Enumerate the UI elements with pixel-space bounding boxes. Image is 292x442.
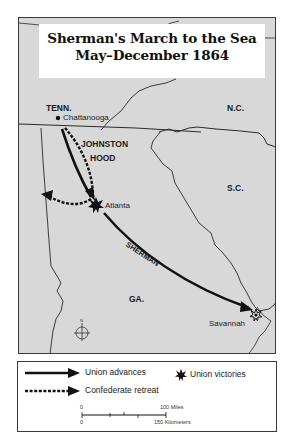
scale-km-end: 150 Kilometers — [154, 419, 191, 425]
route-label-johnston: JOHNSTON — [81, 139, 128, 149]
legend-union-advances: Union advances — [85, 367, 146, 377]
map-frame: N Sherman's March to the Sea May–Decembe… — [18, 17, 276, 354]
title-line-2: May–December 1864 — [39, 47, 265, 64]
confederate-retreat-arrow-icon — [25, 386, 80, 396]
city-label-atlanta: Atlanta — [105, 201, 130, 210]
scale-miles-start: 0 — [80, 404, 83, 410]
state-label-sc: S.C. — [227, 183, 244, 193]
route-label-hood: HOOD — [90, 153, 116, 163]
compass-rose-icon: N — [74, 318, 90, 341]
title-line-1: Sherman's March to the Sea — [39, 30, 265, 47]
union-advances-arrow-icon — [25, 368, 80, 378]
state-label-tenn: TENN. — [46, 103, 72, 113]
scale-miles-end: 100 Miles — [160, 404, 184, 410]
title-box: Sherman's March to the Sea May–December … — [39, 24, 265, 78]
legend-union-victories: Union victories — [190, 369, 246, 379]
confederate-retreat-west — [49, 196, 91, 204]
sherman-route — [104, 213, 249, 308]
ga-sc-border — [151, 131, 276, 311]
ga-al-border — [41, 128, 63, 354]
city-label-chattanooga: Chattanooga — [63, 113, 109, 122]
legend: Union advances Confederate retreat Union… — [17, 361, 277, 432]
confederate-retreat-arrowhead — [41, 190, 53, 201]
city-label-savannah: Savannah — [209, 319, 245, 328]
state-label-ga: GA. — [129, 294, 144, 304]
svg-text:N: N — [80, 318, 83, 323]
top-cropped-caption — [150, 0, 270, 4]
state-label-nc: N.C. — [227, 103, 244, 113]
tn-nc-border — [101, 79, 176, 130]
map-title: Sherman's March to the Sea May–December … — [39, 30, 265, 64]
scale-km-start: 0 — [80, 419, 83, 425]
legend-confederate-retreat: Confederate retreat — [85, 385, 159, 395]
chattanooga-marker — [56, 116, 60, 120]
scale-bar — [82, 412, 166, 418]
union-victories-star-icon — [175, 369, 187, 381]
